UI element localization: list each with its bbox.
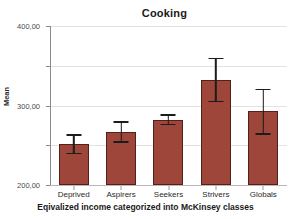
y-axis-tick: 0,00 — [46, 185, 50, 186]
bar-group — [240, 26, 287, 185]
x-axis-category-label: Aspirers — [106, 190, 135, 199]
error-bar — [208, 58, 223, 102]
error-bar-cap-top — [256, 89, 271, 90]
error-bar-cap-top — [114, 121, 129, 122]
chart-title: Cooking — [0, 7, 291, 19]
bar[interactable] — [153, 120, 183, 185]
y-axis-tick-label: 300,00 — [17, 101, 40, 110]
bar-group — [192, 26, 239, 185]
error-bar — [161, 114, 176, 125]
error-bar-cap-bottom — [161, 124, 176, 125]
x-axis-category-label: Globals — [250, 190, 277, 199]
error-bar-line — [263, 89, 264, 135]
plot-area: 0,00100,00200,00300,00400,00 — [50, 26, 287, 186]
x-axis-category-label: Seekers — [154, 190, 183, 199]
error-bar-line — [215, 58, 216, 102]
error-bar — [256, 89, 271, 135]
x-axis-title: Eqivalized income categorized into McKin… — [0, 202, 291, 212]
error-bar — [66, 134, 81, 154]
x-axis-category-label: Strivers — [202, 190, 229, 199]
y-axis-tick-label: 200,00 — [17, 181, 40, 190]
error-bar — [114, 121, 129, 142]
bar-group — [50, 26, 97, 185]
y-axis-tick-label: 400,00 — [17, 22, 40, 31]
error-bar-cap-top — [66, 134, 81, 135]
y-axis-title: Mean — [2, 77, 11, 117]
error-bar-cap-bottom — [256, 133, 271, 134]
chart-screenshot: Cooking Mean 0,00100,00200,00300,00400,0… — [0, 0, 291, 219]
error-bar-line — [120, 121, 121, 142]
bar-group — [97, 26, 144, 185]
error-bar-cap-bottom — [114, 141, 129, 142]
error-bar-cap-bottom — [66, 153, 81, 154]
error-bar-cap-bottom — [208, 101, 223, 102]
plot-inner: 0,00100,00200,00300,00400,00 — [50, 26, 287, 186]
error-bar-line — [73, 134, 74, 154]
x-axis-category-label: Deprived — [58, 190, 90, 199]
error-bar-cap-top — [161, 114, 176, 115]
error-bar-cap-top — [208, 58, 223, 59]
bar-group — [145, 26, 192, 185]
